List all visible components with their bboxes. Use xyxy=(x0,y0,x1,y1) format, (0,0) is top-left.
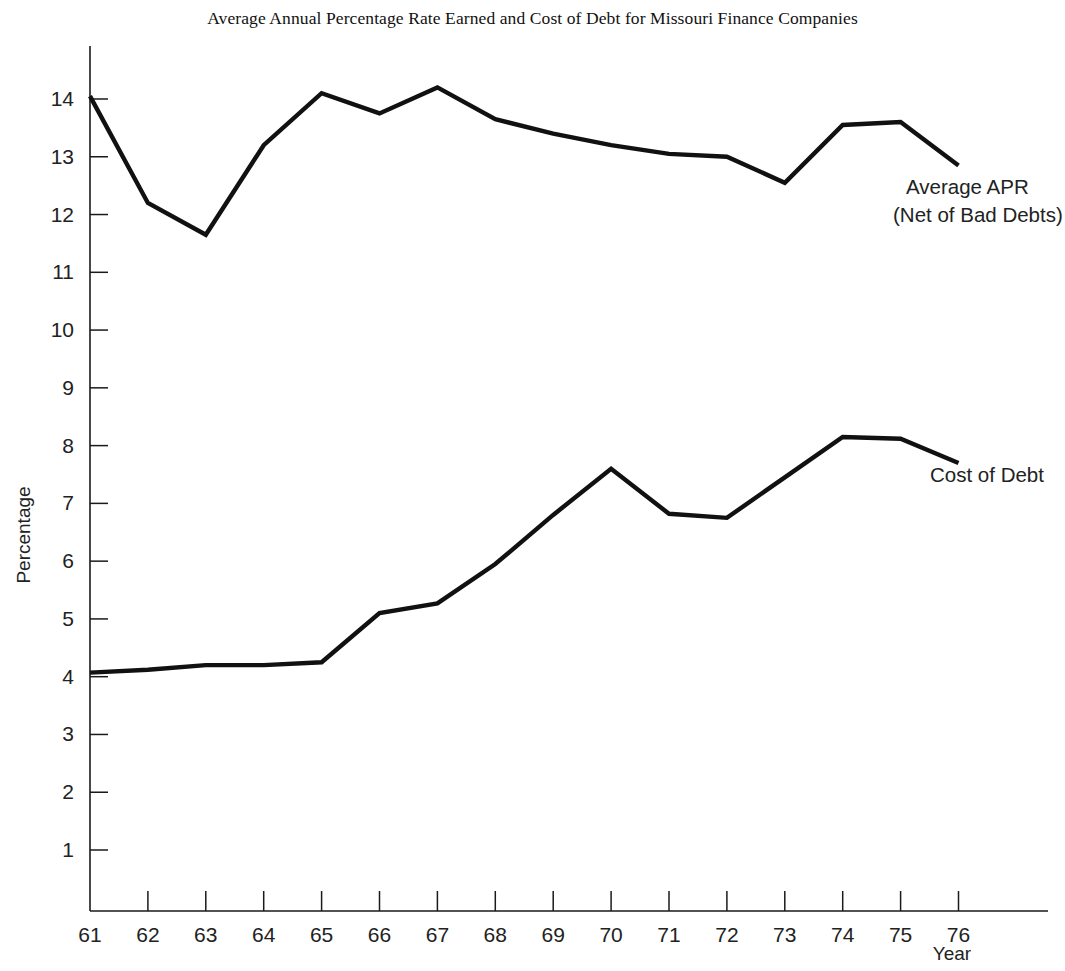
y-tick-label-7: 7 xyxy=(62,491,74,514)
y-tick-label-3: 3 xyxy=(62,722,74,745)
x-tick-label-73: 73 xyxy=(773,923,796,946)
x-tick-label-65: 65 xyxy=(310,923,333,946)
x-axis-title: Year xyxy=(933,943,972,964)
x-tick-label-64: 64 xyxy=(252,923,276,946)
y-axis-title: Percentage xyxy=(13,486,34,583)
x-tick-label-72: 72 xyxy=(715,923,738,946)
x-tick-label-69: 69 xyxy=(542,923,565,946)
annotation-average-apr: Average APR xyxy=(906,175,1029,198)
annotation-cost-of-debt: Cost of Debt xyxy=(930,463,1044,486)
y-tick-label-14: 14 xyxy=(51,87,75,110)
x-tick-label-63: 63 xyxy=(194,923,217,946)
annotation-average-apr-subtitle: (Net of Bad Debts) xyxy=(893,203,1063,226)
series-annotations: Average APR(Net of Bad Debts)Cost of Deb… xyxy=(893,175,1063,486)
y-axis-ticks xyxy=(90,99,108,850)
chart-figure: Average Annual Percentage Rate Earned an… xyxy=(0,0,1065,971)
x-tick-label-70: 70 xyxy=(599,923,622,946)
series-line-average-apr xyxy=(90,87,959,234)
x-tick-label-68: 68 xyxy=(484,923,507,946)
x-tick-label-66: 66 xyxy=(368,923,391,946)
x-tick-label-71: 71 xyxy=(657,923,680,946)
y-tick-label-4: 4 xyxy=(62,665,74,688)
y-tick-label-6: 6 xyxy=(62,549,74,572)
data-series-group xyxy=(90,87,959,672)
y-tick-label-2: 2 xyxy=(62,780,74,803)
y-tick-label-12: 12 xyxy=(51,203,74,226)
y-tick-label-11: 11 xyxy=(52,260,74,283)
x-tick-label-67: 67 xyxy=(426,923,449,946)
y-tick-label-1: 1 xyxy=(62,838,74,861)
x-tick-label-75: 75 xyxy=(889,923,912,946)
x-axis-tick-labels: 61626364656667686970717273747576 xyxy=(78,923,970,946)
x-tick-label-61: 61 xyxy=(78,923,101,946)
line-chart-plot: 1234567891011121314 61626364656667686970… xyxy=(0,0,1065,971)
x-axis-ticks xyxy=(148,891,959,911)
y-tick-label-13: 13 xyxy=(51,145,74,168)
y-tick-label-10: 10 xyxy=(51,318,74,341)
x-tick-label-74: 74 xyxy=(831,923,855,946)
y-tick-label-8: 8 xyxy=(62,434,74,457)
x-tick-label-62: 62 xyxy=(136,923,159,946)
y-axis-tick-labels: 1234567891011121314 xyxy=(51,87,75,861)
y-tick-label-5: 5 xyxy=(62,607,74,630)
series-line-cost-of-debt xyxy=(90,437,959,673)
y-tick-label-9: 9 xyxy=(62,376,74,399)
